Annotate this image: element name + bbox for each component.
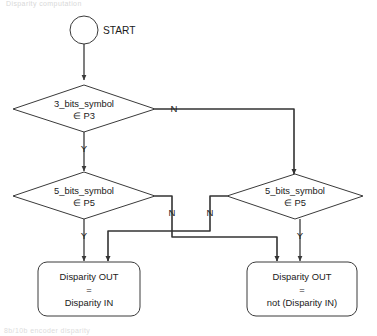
node-decision-p5-right-line1: 5_bits_symbol	[265, 185, 325, 196]
node-decision-p3-line2: ∈ P3	[73, 110, 95, 121]
node-result-inverted-line1: Disparity OUT	[273, 271, 332, 282]
node-start-circle	[70, 16, 98, 44]
node-decision-p5-left-line1: 5_bits_symbol	[54, 185, 114, 196]
branch-label-p5-right-yes: Y	[297, 230, 304, 241]
flowchart-svg: START 3_bits_symbol ∈ P3 5_bits_symbol ∈…	[0, 0, 377, 336]
node-result-same-line3: Disparity IN	[65, 297, 113, 308]
flowchart-canvas: Disparity computation START	[0, 0, 377, 336]
node-decision-p3-line1: 3_bits_symbol	[54, 98, 114, 109]
branch-label-p5-left-yes: Y	[81, 230, 88, 241]
edge-p3-no-to-p5-right	[155, 109, 294, 174]
node-decision-p5-right-line2: ∈ P5	[284, 197, 306, 208]
top-text-fragment: Disparity computation	[6, 0, 82, 8]
branch-label-p3-yes: Y	[81, 143, 88, 154]
node-result-same-line1: Disparity OUT	[60, 271, 119, 282]
node-result-inverted-line3: not (Disparity IN)	[267, 297, 337, 308]
bottom-text-fragment: 8b/10b encoder disparity	[4, 327, 90, 335]
branch-label-p3-no: N	[171, 103, 178, 114]
branch-label-p5-right-no: N	[207, 207, 214, 218]
branch-label-p5-left-no: N	[169, 207, 176, 218]
node-result-inverted-line2: =	[299, 284, 305, 295]
node-start-label: START	[103, 25, 135, 36]
node-result-same-line2: =	[86, 284, 92, 295]
node-decision-p5-left-line2: ∈ P5	[73, 197, 95, 208]
